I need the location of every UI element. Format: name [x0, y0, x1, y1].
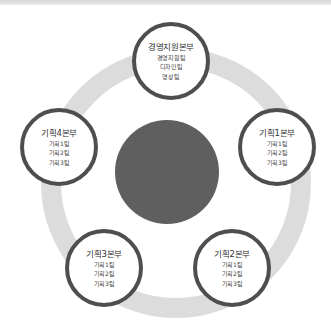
node-item: 기획3팀 [267, 158, 288, 168]
node-planning-3: 기획3본부 기획1팀 기획2팀 기획3팀 [65, 229, 143, 307]
node-title: 기획2본부 [214, 248, 250, 260]
node-item: 기획3팀 [222, 279, 243, 289]
node-item: 영상팀 [162, 72, 179, 82]
node-item: 기획2팀 [222, 269, 243, 279]
node-item: 기획1팀 [94, 260, 115, 270]
node-item: 기획1팀 [267, 139, 288, 149]
node-item: 기획3팀 [94, 279, 115, 289]
node-planning-4: 기획4본부 기획1팀 기획2팀 기획3팀 [20, 108, 98, 186]
node-planning-1: 기획1본부 기획1팀 기획2팀 기획3팀 [238, 108, 316, 186]
node-item: 경영지원팀 [157, 53, 186, 63]
top-band [0, 0, 331, 5]
node-title: 기획1본부 [259, 127, 295, 139]
node-title: 기획4본부 [41, 127, 77, 139]
node-item: 기획2팀 [94, 269, 115, 279]
center-circle [115, 120, 219, 224]
node-management-support: 경영지원본부 경영지원팀 디자인팀 영상팀 [132, 22, 210, 100]
node-title: 경영지원본부 [148, 41, 194, 53]
node-item: 기획1팀 [49, 139, 70, 149]
node-item: 디자인팀 [160, 62, 183, 72]
node-item: 기획2팀 [49, 148, 70, 158]
node-item: 기획2팀 [267, 148, 288, 158]
node-planning-2: 기획2본부 기획1팀 기획2팀 기획3팀 [193, 229, 271, 307]
node-title: 기획3본부 [86, 248, 122, 260]
node-item: 기획3팀 [49, 158, 70, 168]
node-item: 기획1팀 [222, 260, 243, 270]
